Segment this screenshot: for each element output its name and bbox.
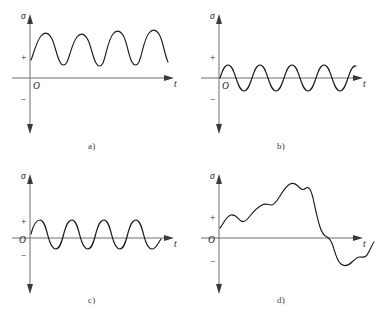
panel-a-sigma-arrow-down [27,124,33,134]
panel-c-sigma-arrow-up [27,174,33,184]
panel-c-t-label: t [174,239,177,249]
panel-d-sigma-arrow-down [216,284,222,294]
caption-panel-a: a) [88,141,95,151]
panel-a-minus-label: − [21,95,26,105]
panel-d-origin-label: O [208,235,215,245]
panel-b-sigma-arrow-down [216,124,222,134]
panel-a-t-arrow [164,75,174,81]
panel-c-t-arrow [164,235,174,241]
panel-a-origin-label: O [33,81,40,91]
caption-panel-c: c) [88,295,95,305]
panel-d-sigma-label: σ [210,171,215,181]
stress-cycle-figure: σ t O + − σ t O + − σ t O + − [0,0,378,319]
panel-b: σ t O + − [201,11,366,134]
panel-c: σ t O + − [12,171,177,294]
caption-panel-d: d) [277,295,285,305]
panel-a-plus-label: + [21,53,26,63]
panel-a-sigma-arrow-up [27,14,33,24]
panel-d-plus-label: + [210,213,215,223]
caption-panel-b: b) [277,141,285,151]
panel-c-sigma-arrow-down [27,284,33,294]
panel-b-t-label: t [363,79,366,89]
panel-b-t-arrow [353,75,363,81]
panel-a: σ t O + − [12,11,177,134]
panel-a-sigma-label: σ [21,11,26,21]
panel-d-curve [220,183,374,265]
panel-c-plus-label: + [21,217,26,227]
panel-a-curve [31,30,168,66]
panel-c-curve [31,220,161,249]
panel-b-sigma-label: σ [210,11,215,21]
panel-c-minus-label: − [21,251,26,261]
panel-b-origin-label: O [222,81,229,91]
panel-d-t-arrow [353,235,363,241]
panel-c-sigma-label: σ [21,171,26,181]
panel-d: σ t O + − [201,171,374,294]
panel-b-plus-label: + [210,53,215,63]
panel-d-sigma-arrow-up [216,174,222,184]
panel-b-sigma-arrow-up [216,14,222,24]
panel-a-t-label: t [174,79,177,89]
panel-c-origin-label: O [19,235,26,245]
panel-b-minus-label: − [210,95,215,105]
panel-d-minus-label: − [210,257,215,267]
panel-d-t-label: t [363,239,366,249]
